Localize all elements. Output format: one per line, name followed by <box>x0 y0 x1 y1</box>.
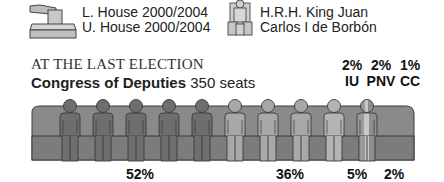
ballot-box-icon <box>28 2 78 40</box>
lower-house-term: L. House 2000/2004 <box>82 5 208 20</box>
chamber-seats: 350 seats <box>190 74 255 91</box>
pnv-percentage: 2% <box>366 57 396 73</box>
section-title: AT THE LAST ELECTION <box>31 56 204 73</box>
chamber-heading: Congress of Deputies 350 seats <box>31 74 255 91</box>
cc-label: CC <box>398 73 422 89</box>
party2-percentage: 36% <box>270 166 310 182</box>
throne-icon <box>226 0 254 36</box>
party3-percentage: 5% <box>342 166 372 182</box>
seat-pictogram <box>30 96 416 166</box>
iu-percentage: 2% <box>339 57 365 73</box>
party4-percentage: 2% <box>379 166 409 182</box>
pnv-label: PNV <box>366 73 396 89</box>
party1-percentage: 52% <box>120 166 160 182</box>
chamber-name: Congress of Deputies <box>31 74 186 91</box>
cc-percentage: 1% <box>398 57 422 73</box>
iu-label: IU <box>339 73 365 89</box>
upper-house-term: U. House 2000/2004 <box>82 20 210 35</box>
head-of-state-line2: Carlos I de Borbón <box>260 20 377 35</box>
head-of-state-line1: H.R.H. King Juan <box>260 5 368 20</box>
